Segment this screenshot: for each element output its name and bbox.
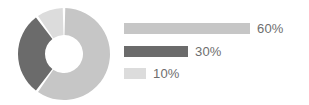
- donut-chart-figure: 60% 30% 10%: [0, 0, 309, 105]
- legend-label-30: 30%: [195, 45, 222, 58]
- legend-swatch-60: [124, 23, 250, 34]
- legend-item-60[interactable]: 60%: [124, 22, 284, 34]
- chart-legend: 60% 30% 10%: [124, 22, 304, 90]
- legend-label-10: 10%: [153, 67, 180, 80]
- legend-swatch-30: [124, 46, 188, 57]
- legend-label-60: 60%: [257, 22, 284, 35]
- donut-chart: [17, 7, 111, 101]
- donut-slices: [18, 8, 110, 100]
- legend-item-10[interactable]: 10%: [124, 67, 180, 79]
- legend-swatch-10: [124, 68, 146, 79]
- legend-item-30[interactable]: 30%: [124, 45, 222, 57]
- donut-chart-svg: [17, 7, 111, 101]
